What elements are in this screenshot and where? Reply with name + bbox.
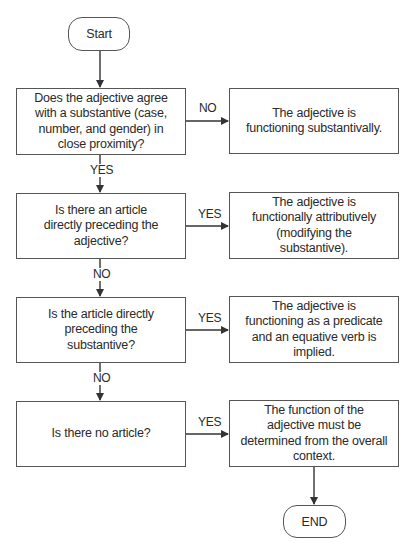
branch-label-yes-3: YES bbox=[198, 312, 221, 325]
outcome-box-1: The adjective is functioning substantiva… bbox=[229, 88, 399, 154]
outcome-box-4: The function of the adjective must be de… bbox=[229, 400, 399, 467]
outcome-box-3: The adjective is functioning as a predic… bbox=[229, 296, 399, 363]
end-terminal: END bbox=[283, 505, 346, 538]
decision-1-question: Does the adjective agree with a substant… bbox=[27, 91, 175, 153]
branch-label-no-3: NO bbox=[93, 372, 110, 385]
branch-label-yes-2: YES bbox=[198, 208, 221, 221]
branch-label-no-1: NO bbox=[199, 102, 216, 115]
outcome-3-text: The adjective is functioning as a predic… bbox=[242, 299, 386, 361]
outcome-box-2: The adjective is functionally attributiv… bbox=[229, 192, 399, 259]
decision-2-question: Is there an article directly preceding t… bbox=[39, 203, 163, 250]
decision-box-1: Does the adjective agree with a substant… bbox=[16, 88, 186, 155]
flowchart: Start Does the adjective agree with a su… bbox=[0, 0, 417, 551]
branch-label-no-2: NO bbox=[93, 268, 110, 281]
outcome-2-text: The adjective is functionally attributiv… bbox=[246, 195, 382, 257]
start-terminal: Start bbox=[68, 17, 130, 51]
decision-box-3: Is the article directly preceding the su… bbox=[16, 297, 186, 363]
branch-label-yes-4: YES bbox=[198, 416, 221, 429]
outcome-1-text: The adjective is functioning substantiva… bbox=[244, 106, 384, 137]
end-label: END bbox=[302, 515, 328, 529]
decision-3-question: Is the article directly preceding the su… bbox=[35, 307, 167, 354]
decision-4-question: Is there no article? bbox=[52, 426, 151, 442]
start-label: Start bbox=[86, 27, 111, 41]
decision-box-4: Is there no article? bbox=[16, 401, 186, 467]
decision-box-2: Is there an article directly preceding t… bbox=[16, 193, 186, 259]
connector-lines bbox=[0, 0, 417, 551]
outcome-4-text: The function of the adjective must be de… bbox=[240, 403, 388, 465]
branch-label-yes-1: YES bbox=[90, 164, 113, 177]
